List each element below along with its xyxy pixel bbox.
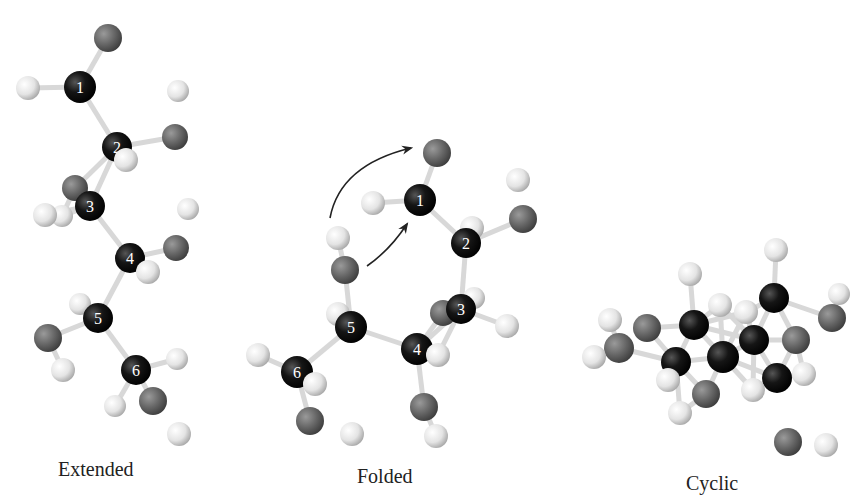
hydrogen-atom [668,401,692,425]
hydrogen-atom [741,378,765,402]
hydrogen-atom [424,424,448,448]
carbon-number-label: 1 [416,192,424,209]
carbon-number-label: 3 [457,301,465,318]
bonds-layer [28,38,839,436]
hydrogen-atom [246,343,270,367]
hydrogen-atom [167,422,191,446]
carbon-number-label: 1 [76,79,84,96]
hydrogen-atom [828,283,850,305]
oxygen-atom [34,324,62,352]
hydrogen-atom [426,343,450,367]
carbon-atom [707,341,739,373]
hydrogen-atom [764,238,788,262]
carbon-atom [679,310,709,340]
carbon-number-label: 5 [94,310,102,327]
oxygen-atom [818,304,846,332]
hydrogen-atom [708,293,732,317]
hydrogen-atom [582,345,606,369]
hydrogen-atom [656,368,680,392]
carbon-number-label: 6 [132,362,140,379]
atoms-layer: 123456123546 [16,24,850,457]
carbon-atom: 1 [64,71,96,103]
oxygen-atom [774,428,802,456]
oxygen-atom [94,24,122,52]
carbon-atom [759,283,789,313]
caption-cyclic: Cyclic [686,472,738,495]
oxygen-atom [633,314,661,342]
carbon-number-label: 3 [86,198,94,215]
hydrogen-atom [678,262,702,286]
hydrogen-atom [495,314,519,338]
hydrogen-atom [177,198,199,220]
caption-folded: Folded [357,465,413,488]
hydrogen-atom [361,191,385,215]
hydrogen-atom [340,422,364,446]
oxygen-atom [509,205,537,233]
carbon-atom: 6 [121,355,151,385]
caption-extended: Extended [58,458,134,481]
hydrogen-atom [166,348,188,370]
hydrogen-atom [814,433,838,457]
oxygen-atom [782,326,810,354]
carbon-atom: 2 [451,228,481,258]
molecule-diagram: 123456123546 [0,0,857,500]
oxygen-atom [331,256,359,284]
carbon-number-label: 4 [413,341,421,358]
carbon-atom [762,363,792,393]
carbon-number-label: 5 [347,319,355,336]
hydrogen-atom [792,362,816,386]
carbon-atom: 1 [404,184,436,216]
curved-arrow-icon [367,224,407,266]
oxygen-atom [139,387,167,415]
hydrogen-atom [114,148,138,172]
carbon-number-label: 6 [293,364,301,381]
hydrogen-atom [167,80,189,102]
hydrogen-atom [598,308,622,332]
hydrogen-atom [16,76,40,100]
hydrogen-atom [51,358,75,382]
hydrogen-atom [303,372,327,396]
carbon-number-label: 2 [462,235,470,252]
hydrogen-atom [326,226,350,250]
hydrogen-atom [104,395,126,417]
carbon-atom: 3 [446,294,476,324]
hydrogen-atom [734,300,758,324]
oxygen-atom [163,235,189,261]
carbon-atom: 3 [75,191,105,221]
hydrogen-atom [136,260,160,284]
carbon-atom: 5 [335,311,367,343]
oxygen-atom [423,139,451,167]
carbon-number-label: 4 [126,250,134,267]
oxygen-atom [604,333,634,363]
oxygen-atom [162,124,188,150]
oxygen-atom [410,393,438,421]
hydrogen-atom [506,168,530,192]
hydrogen-atom [33,203,57,227]
oxygen-atom [296,407,324,435]
oxygen-atom [692,380,720,408]
carbon-atom: 5 [83,303,113,333]
carbon-atom [739,325,769,355]
